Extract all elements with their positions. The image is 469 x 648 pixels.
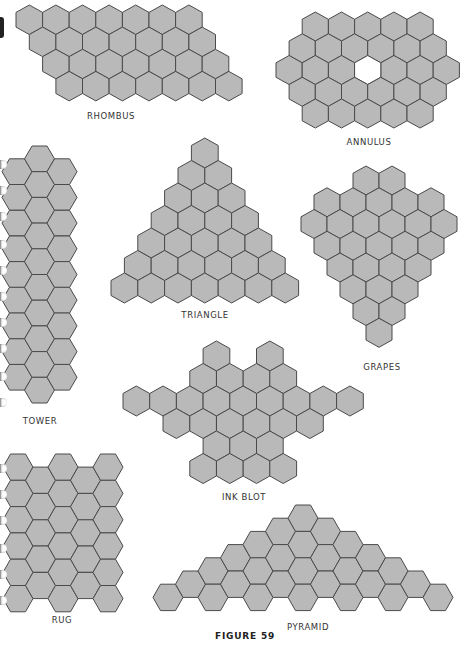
hexagon-figure-canvas [0, 0, 469, 648]
shape-rug [3, 454, 123, 612]
figure-caption: FIGURE 59 [215, 631, 275, 641]
hexagon-cell [337, 386, 364, 416]
shape-pyramid [153, 505, 453, 611]
hexagon-cell [123, 386, 150, 416]
shape-grapes [301, 166, 457, 347]
label-tower: TOWER [23, 416, 58, 426]
shape-tower [2, 146, 77, 403]
label-ink-blot: INK BLOT [222, 492, 266, 502]
binding-spine-mark [0, 17, 4, 38]
label-annulus: ANNULUS [347, 137, 392, 147]
shape-annulus [276, 12, 459, 128]
label-rhombus: RHOMBUS [87, 111, 135, 121]
shape-triangle [111, 138, 299, 303]
label-triangle: TRIANGLE [181, 310, 228, 320]
label-rug: RUG [52, 615, 73, 625]
label-grapes: GRAPES [363, 362, 400, 372]
shape-rhombus [16, 5, 242, 101]
shape-ink-blot [123, 341, 363, 484]
label-pyramid: PYRAMID [287, 622, 329, 632]
